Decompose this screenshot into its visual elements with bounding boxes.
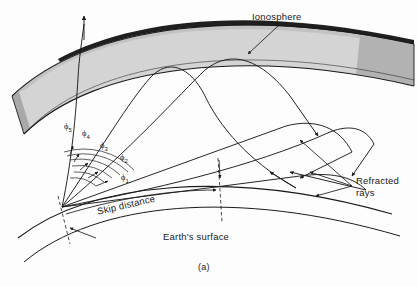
ionosphere-right-end-face [356, 36, 414, 86]
phi2-subscript: 2 [124, 158, 127, 164]
ionosphere-label: Ionosphere [252, 11, 302, 22]
ray-extra-long-hop [62, 128, 374, 207]
skip-distance-arrow-lower [70, 228, 96, 238]
refracted-rays-label-line1: Refracted [356, 175, 399, 186]
figure-container: Ionosphere Refracted rays Skip distance … [0, 0, 417, 287]
refracted-leader-2 [310, 172, 352, 186]
angle-label-phi1: ϕ1 [121, 172, 129, 184]
refracted-leader-1 [300, 140, 352, 186]
ray-phi4-arrowseg [270, 172, 296, 188]
phi3-subscript: 3 [104, 146, 107, 152]
ionosphere-layer [12, 20, 414, 134]
angle-label-phi3: ϕ3 [100, 140, 108, 152]
refracted-rays-leader-group [300, 140, 352, 196]
angle-label-phi2: ϕ2 [120, 152, 128, 164]
fan-arrow-4 [74, 154, 79, 162]
angle-arc-1 [70, 178, 96, 186]
figure-caption: (a) [198, 262, 210, 272]
phi5-subscript: 5 [68, 127, 71, 133]
earth-surface-group [18, 186, 400, 262]
angle-label-phi4: ϕ4 [82, 128, 90, 140]
ray-phi4-return [205, 96, 296, 188]
ray-phi2-return [300, 152, 352, 178]
phi4-subscript: 4 [86, 134, 89, 140]
ray-extra-long-return [352, 144, 374, 176]
ray-phi5-escaping [62, 24, 84, 207]
refracted-leader-3 [316, 186, 352, 196]
refracted-rays-label-line2: rays [356, 187, 375, 198]
angle-label-phi5: ϕ5 [64, 121, 72, 133]
refracted-rays-label: Refracted rays [356, 175, 399, 198]
phi1-subscript: 1 [125, 178, 128, 184]
ray-phi3-return [290, 96, 318, 136]
ionosphere-front-face [12, 25, 414, 134]
fan-arrow-1 [96, 181, 108, 186]
skip-end-vertical-arrow [219, 160, 220, 178]
skip-end-dashed-line [218, 158, 222, 222]
earth-surface-label: Earth's surface [163, 231, 229, 242]
propagation-diagram [0, 0, 417, 287]
